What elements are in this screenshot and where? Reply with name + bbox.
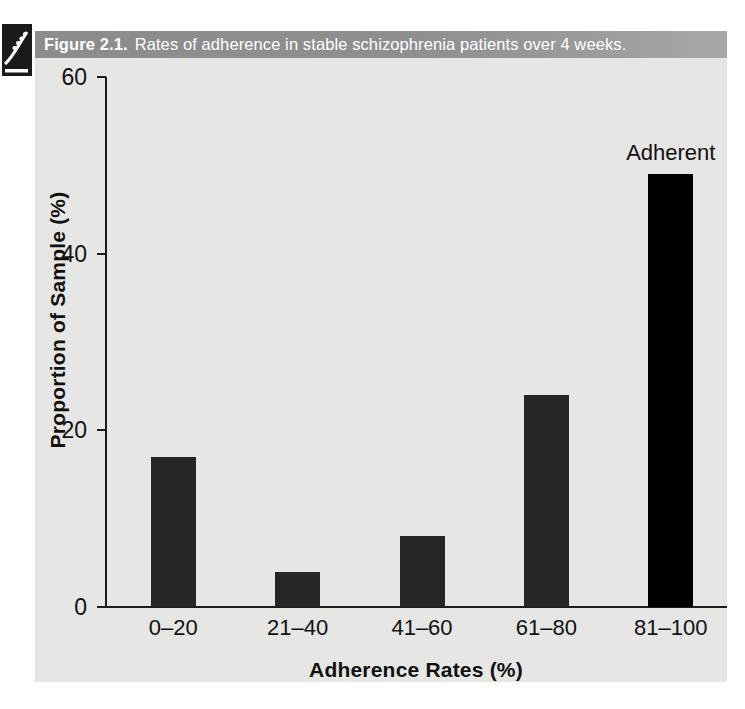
- figure-caption-label: Figure 2.1.: [44, 35, 128, 54]
- figure-caption-bar: Figure 2.1. Rates of adherence in stable…: [35, 31, 727, 58]
- y-axis-tick: [97, 76, 106, 78]
- x-axis-tick-label: 21–40: [267, 615, 328, 641]
- y-axis-tick: [97, 606, 106, 608]
- bar-chart: 0204060 Proportion of Sample (%) Adheren…: [35, 58, 727, 682]
- bar-annotation-adherent: Adherent: [626, 140, 715, 166]
- figure-marker-icon: [2, 24, 32, 76]
- bar: [275, 572, 320, 607]
- figure-body: 0204060 Proportion of Sample (%) Adheren…: [35, 58, 727, 682]
- bar: [524, 395, 569, 607]
- bar: [151, 457, 196, 607]
- x-axis-tick-label: 0–20: [149, 615, 198, 641]
- x-axis-title: Adherence Rates (%): [105, 658, 727, 682]
- y-axis-tick: [97, 253, 106, 255]
- y-axis-tick: [97, 429, 106, 431]
- y-axis-line: [105, 77, 107, 608]
- x-axis-tick-label: 81–100: [634, 615, 707, 641]
- y-axis-tick-label: 0: [35, 594, 87, 621]
- y-axis-title: Proportion of Sample (%): [46, 85, 70, 555]
- bar: [648, 174, 693, 607]
- figure-caption-text: Rates of adherence in stable schizophren…: [135, 35, 627, 54]
- x-axis-tick-label: 41–60: [391, 615, 452, 641]
- x-axis-tick-label: 61–80: [516, 615, 577, 641]
- bar: [400, 536, 445, 607]
